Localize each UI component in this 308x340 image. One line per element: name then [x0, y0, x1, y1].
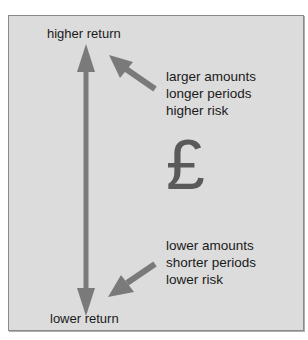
- upper-factor-item: larger amounts: [166, 68, 256, 85]
- lower-factor-item: lower amounts: [166, 237, 256, 254]
- arrows-layer: [0, 0, 308, 340]
- lower-return-label: lower return: [50, 311, 119, 327]
- lower-factor-item: lower risk: [166, 271, 256, 288]
- upper-factor-item: higher risk: [166, 102, 256, 119]
- down-left-arrow-icon: [108, 264, 155, 297]
- lower-factors-list: lower amounts shorter periods lower risk: [166, 237, 256, 288]
- up-left-arrow-icon: [109, 55, 155, 89]
- upper-factors-list: larger amounts longer periods higher ris…: [166, 68, 256, 119]
- pound-sign-icon: £: [166, 130, 205, 200]
- lower-factor-item: shorter periods: [166, 254, 256, 271]
- higher-return-label: higher return: [47, 26, 121, 42]
- upper-factor-item: longer periods: [166, 85, 256, 102]
- vertical-double-arrow-icon: [77, 44, 95, 316]
